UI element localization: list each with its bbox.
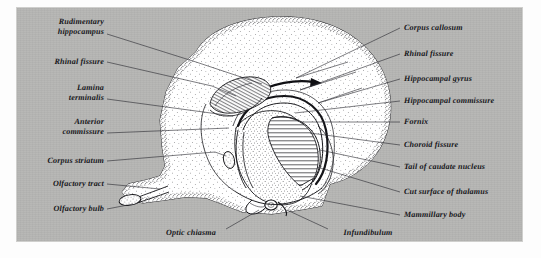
label-corpus-callosum: Corpus callosum xyxy=(404,23,463,33)
label-anterior-commissure: Anterior commissure xyxy=(20,117,104,137)
label-corpus-striatum: Corpus striatum xyxy=(20,156,104,166)
label-optic-chiasma: Optic chiasma xyxy=(155,228,227,238)
label-hippocampal-commissure: Hippocampal commissure xyxy=(404,96,494,106)
label-cut-surface-of-thalamus: Cut surface of thalamus xyxy=(404,187,488,197)
label-hippocampal-gyrus: Hippocampal gyrus xyxy=(404,74,472,84)
label-choroid-fissure: Choroid fissure xyxy=(404,140,458,150)
label-rhinal-fissure-left: Rhinal fissure xyxy=(20,57,104,67)
label-infundibulum: Infundibulum xyxy=(332,228,404,238)
label-tail-of-caudate-nucleus: Tail of caudate nucleus xyxy=(404,162,485,172)
figure-page: Rudimentary hippocampus Rhinal fissure L… xyxy=(0,0,541,258)
label-mammillary-body: Mammillary body xyxy=(404,210,465,220)
label-fornix: Fornix xyxy=(404,117,428,127)
label-olfactory-tract: Olfactory tract xyxy=(20,179,104,189)
label-lamina-terminalis: Lamina terminalis xyxy=(20,83,104,103)
label-rhinal-fissure-right: Rhinal fissure xyxy=(404,49,454,59)
label-olfactory-bulb: Olfactory bulb xyxy=(20,204,104,214)
label-rudimentary-hippocampus: Rudimentary hippocampus xyxy=(20,17,104,37)
